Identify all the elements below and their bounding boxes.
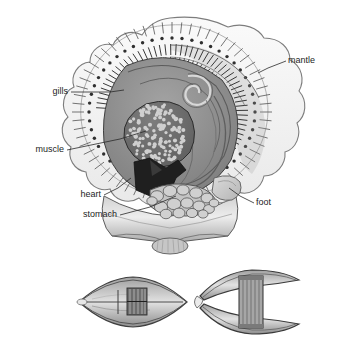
label-muscle: muscle: [35, 144, 64, 154]
closed-shell-hinge: [127, 288, 147, 315]
foot-structure: [212, 176, 241, 201]
label-foot: foot: [256, 197, 272, 207]
label-gills: gills: [52, 86, 68, 96]
label-stomach: stomach: [83, 209, 117, 219]
open-shell-adductor-column: [239, 276, 263, 328]
closed-shell-figure: [77, 277, 187, 327]
anatomy-diagram: mantle gills muscle heart stomach foot: [0, 0, 340, 351]
label-mantle: mantle: [288, 55, 315, 65]
label-heart: heart: [80, 189, 101, 199]
figure-root: mantle gills muscle heart stomach foot: [0, 0, 340, 351]
open-shell-figure: [195, 270, 300, 334]
adductor-muscle: [124, 101, 195, 166]
